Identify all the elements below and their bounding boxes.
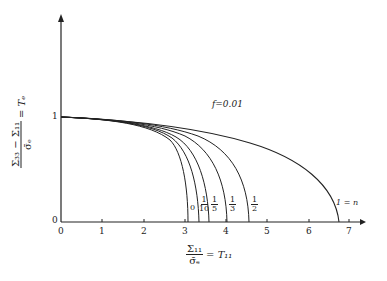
x-tick-1: 1 (99, 227, 105, 236)
curve-1-10 (61, 117, 199, 222)
y-tick-0: 0 (52, 216, 58, 225)
curve-1-2 (61, 117, 249, 222)
curve-label-1-2: 12 (251, 196, 258, 213)
curve-label-n: 1 = n (336, 199, 358, 207)
curve-label-1-5: 15 (211, 196, 218, 213)
annotation-f: f=0.01 (212, 100, 243, 109)
x-axis-label: Σ₁₁ σ̄ₑ = T₁₁ (186, 243, 232, 266)
y-axis-arrow-icon (58, 14, 64, 22)
x-tick-4: 4 (223, 227, 229, 236)
curve-label-1-10: 110 (199, 196, 209, 213)
x-axis-arrow-icon (360, 219, 366, 225)
x-tick-3: 3 (182, 227, 188, 236)
plot-canvas (0, 0, 387, 281)
x-tick-5: 5 (264, 227, 270, 236)
curve-label-0: 0 (190, 204, 195, 212)
y-axis-label: Σ₃₃ − Σ₁₁ σ̄ₑ = Tₑ (4, 72, 38, 192)
x-tick-7: 7 (346, 227, 352, 236)
curve-label-1-3: 13 (229, 196, 236, 213)
y-tick-1: 1 (52, 112, 58, 121)
curve-0 (61, 117, 188, 222)
x-tick-2: 2 (141, 227, 147, 236)
x-tick-0: 0 (58, 227, 64, 236)
x-tick-6: 6 (306, 227, 312, 236)
